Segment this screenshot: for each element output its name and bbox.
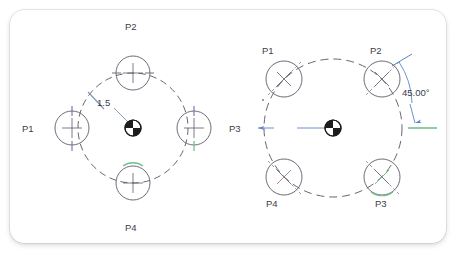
illustration-root: P1 P2 P3 P4 1.5 [0, 0, 456, 257]
angle-tick-upper [392, 54, 412, 66]
left-hole-p1 [55, 106, 89, 151]
p3r-green-arc [371, 192, 393, 196]
right-label-p3: P3 [375, 198, 387, 209]
left-radius-leader [114, 108, 128, 122]
p1r-dot [262, 99, 264, 101]
p4r-diag-tick [268, 161, 301, 194]
left-label-p2: P2 [125, 21, 137, 32]
right-hole-p2 [364, 61, 400, 97]
right-hole-p1 [262, 61, 302, 101]
left-label-p3: P3 [229, 123, 241, 134]
left-hole-p3 [177, 106, 211, 151]
left-center-marker [125, 120, 141, 136]
right-label-p2: P2 [370, 45, 382, 56]
right-label-p4: P4 [266, 198, 278, 209]
right-figure: P1 P2 P3 P4 45.00° [258, 45, 437, 209]
left-figure: P1 P2 P3 P4 1.5 [22, 21, 241, 233]
p4-tick-top-arc [123, 163, 143, 166]
p1r-diag-tick [268, 62, 301, 95]
right-hole-p4 [266, 159, 302, 195]
figure-canvas: P1 P2 P3 P4 1.5 [0, 0, 456, 257]
left-radius-dimension-text: 1.5 [97, 97, 110, 108]
right-center-marker [325, 120, 341, 136]
left-hole-p2 [112, 56, 154, 90]
angle-leader-line [410, 104, 415, 123]
right-hole-p3 [364, 159, 400, 196]
angle-dimension-text: 45.00° [402, 87, 430, 98]
p3r-diag-tick [366, 161, 399, 194]
left-label-p1: P1 [22, 123, 34, 134]
p2r-diag-tick [366, 62, 399, 95]
left-label-p4: P4 [125, 222, 137, 233]
right-label-p1: P1 [262, 45, 274, 56]
